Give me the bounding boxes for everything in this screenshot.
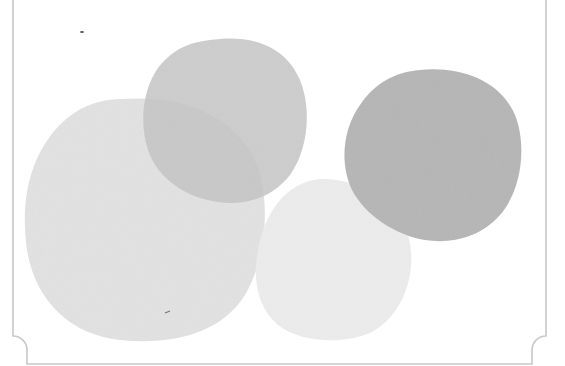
top-middle-circle bbox=[143, 38, 307, 203]
circles-illustration bbox=[0, 0, 565, 366]
illustration-canvas bbox=[0, 0, 565, 366]
speck-top-left bbox=[80, 31, 84, 33]
